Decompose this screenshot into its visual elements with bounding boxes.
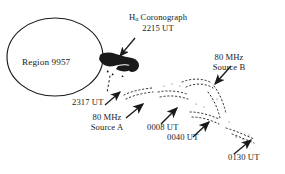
label-80mhz-source-a: 80 MHz Source A bbox=[78, 112, 136, 132]
title-line1: Hα Coronograph bbox=[129, 12, 187, 22]
title-line2-time: 2215 UT bbox=[142, 23, 174, 33]
prominence-blob bbox=[99, 53, 139, 78]
label-time-0008-ut: 0008 UT bbox=[147, 122, 179, 132]
source-b-frequency: 80 MHz bbox=[214, 52, 243, 62]
arrow-2317 bbox=[105, 92, 120, 105]
label-time-0040-ut: 0040 UT bbox=[167, 132, 199, 142]
label-ha-coronograph-title: Hα Coronograph 2215 UT bbox=[112, 12, 204, 33]
figure-canvas: Hα Coronograph 2215 UT Region 9957 2317 … bbox=[0, 0, 285, 174]
label-time-2317-ut: 2317 UT bbox=[72, 97, 104, 107]
source-b-name: Source B bbox=[213, 62, 246, 72]
title-coronograph-suffix: Coronograph bbox=[138, 12, 187, 22]
label-region-9957: Region 9957 bbox=[22, 57, 70, 68]
source-a-frequency: 80 MHz bbox=[92, 112, 121, 122]
label-80mhz-source-b: 80 MHz Source B bbox=[200, 52, 258, 72]
source-a-name: Source A bbox=[91, 122, 124, 132]
arrow-2215-to-prominence bbox=[120, 38, 135, 56]
prominence-tail-dots bbox=[107, 76, 110, 93]
label-time-0130-ut: 0130 UT bbox=[228, 152, 260, 162]
